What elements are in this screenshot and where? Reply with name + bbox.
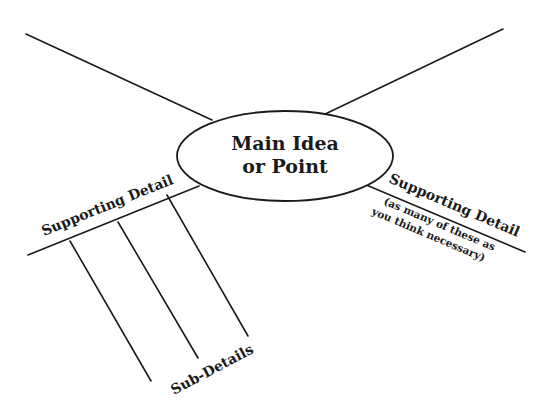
sub-detail-line-3 xyxy=(167,195,248,336)
sub-detail-line-2 xyxy=(118,222,198,358)
branch-top-left-line xyxy=(26,34,212,120)
main-idea-line1: Main Idea xyxy=(231,132,339,154)
sub-details-label: Sub-Details xyxy=(168,341,256,398)
supporting-detail-left-label: Supporting Detail xyxy=(39,171,175,238)
main-idea-line2: or Point xyxy=(242,155,328,177)
branch-top-right-line xyxy=(321,29,503,116)
sub-detail-line-1 xyxy=(70,241,151,381)
spider-map-diagram: Main Idea or Point Supporting Detail Sup… xyxy=(0,0,547,420)
